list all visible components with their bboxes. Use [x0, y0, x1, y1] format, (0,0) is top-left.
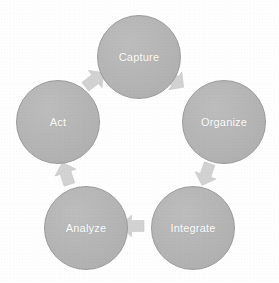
node-integrate-label: Integrate: [170, 223, 215, 234]
node-analyze-label: Analyze: [66, 223, 107, 234]
arrow-glyph: [192, 160, 220, 189]
node-act[interactable]: Act: [16, 80, 100, 164]
node-act-label: Act: [50, 117, 67, 128]
node-capture-label: Capture: [119, 52, 160, 63]
node-capture[interactable]: Capture: [97, 15, 181, 99]
cycle-diagram: Capture Organize Integrate Analyze Act: [0, 0, 279, 283]
node-organize-label: Organize: [201, 117, 247, 128]
node-organize[interactable]: Organize: [182, 80, 266, 164]
node-integrate[interactable]: Integrate: [151, 186, 235, 270]
node-analyze[interactable]: Analyze: [44, 186, 128, 270]
